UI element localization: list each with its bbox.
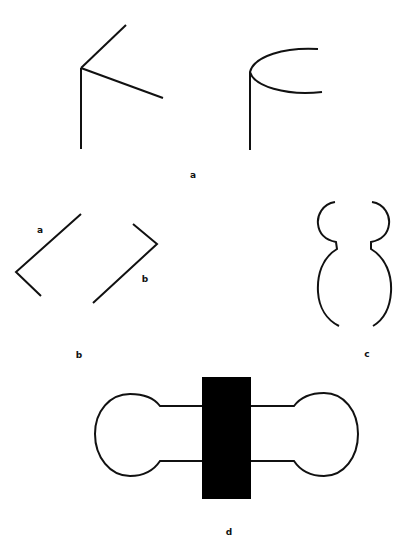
panel-b-label: b (76, 350, 83, 360)
bracket-a-drawing (16, 214, 81, 296)
panel-a-label: a (190, 170, 196, 180)
bracket-a-label: a (37, 225, 43, 235)
dumbbell-right-bulb (251, 393, 358, 476)
panel-a: a (81, 25, 322, 180)
panel-b: a b b (16, 214, 157, 360)
panel-c-label: c (364, 349, 369, 359)
fork-junction-drawing (81, 25, 163, 149)
bracket-b-label: b (142, 274, 149, 284)
vase-contour-right (371, 202, 391, 326)
bracket-b-drawing (93, 224, 157, 303)
panel-d-label: d (226, 527, 232, 537)
occluding-rectangle (202, 377, 251, 499)
vase-contour-left (318, 202, 339, 326)
figure-canvas: a a b b c d (0, 0, 404, 552)
panel-c: c (318, 202, 391, 359)
panel-d: d (95, 377, 358, 537)
cylinder-edge-drawing (250, 49, 322, 150)
dumbbell-left-bulb (95, 394, 202, 476)
